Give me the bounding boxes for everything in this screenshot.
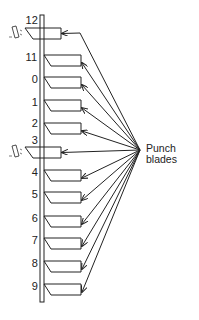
- punch-blade-row-2: [44, 123, 81, 134]
- arrow-row-8: [82, 150, 140, 269]
- punch-blade-row-4: [44, 170, 81, 181]
- punch-blade-row-12: [9, 26, 61, 39]
- punch-blade-row-5: [44, 192, 81, 203]
- row-label-6: 6: [32, 213, 38, 224]
- punch-blade-row-7: [44, 238, 81, 249]
- punch-blades-diagram: 12110123456789 Punch blades: [0, 0, 199, 320]
- punch-blade: [44, 284, 81, 295]
- row-label-3: 3: [32, 135, 38, 146]
- punch-blade: [44, 261, 81, 272]
- row-label-0: 0: [32, 74, 38, 85]
- arrow-row-1: [82, 108, 140, 150]
- punch-blade: [44, 170, 81, 181]
- arrow-row-9: [82, 150, 140, 292]
- row-label-2: 2: [32, 118, 38, 129]
- punched-chip-icon: [12, 26, 19, 38]
- punch-blade: [44, 238, 81, 249]
- punch-blade: [25, 28, 61, 39]
- punch-blade-row-0: [44, 77, 81, 88]
- punch-blade: [25, 147, 61, 158]
- punch-blade: [44, 100, 81, 111]
- punch-blade-row-3: [9, 145, 61, 158]
- punch-blade: [44, 55, 81, 66]
- row-label-11: 11: [26, 52, 37, 63]
- punch-blade: [44, 216, 81, 227]
- row-label-4: 4: [32, 167, 38, 178]
- punch-blade-row-11: [44, 55, 81, 66]
- row-label-12: 12: [26, 15, 38, 26]
- callout-line-2: blades: [146, 154, 177, 165]
- punch-blade: [44, 77, 81, 88]
- arrow-row-3: [62, 150, 140, 153]
- punched-chip-icon: [12, 145, 19, 157]
- punch-blade: [44, 192, 81, 203]
- arrow-row-11: [82, 63, 140, 150]
- punch-blade-row-8: [44, 261, 81, 272]
- row-label-8: 8: [32, 258, 38, 269]
- arrow-row-5: [82, 150, 140, 200]
- row-label-1: 1: [32, 97, 38, 108]
- punch-blades-label: Punch blades: [146, 143, 177, 165]
- row-label-9: 9: [32, 281, 38, 292]
- row-label-7: 7: [32, 235, 38, 246]
- row-label-5: 5: [32, 189, 38, 200]
- arrow-row-6: [82, 150, 140, 224]
- punch-blade-row-6: [44, 216, 81, 227]
- punch-blade-row-1: [44, 100, 81, 111]
- punch-blade-row-9: [44, 284, 81, 295]
- punch-blade: [44, 123, 81, 134]
